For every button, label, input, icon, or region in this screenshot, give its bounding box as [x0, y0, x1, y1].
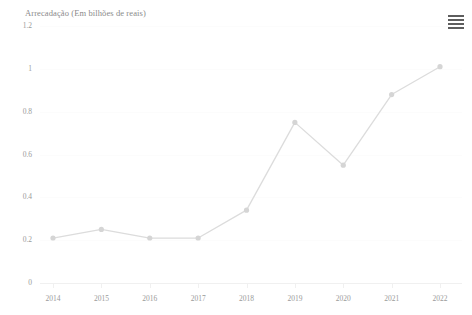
data-point-marker[interactable]: 2019: 0.75	[292, 120, 297, 125]
data-point-marker[interactable]: 2016: 0.21	[147, 235, 152, 240]
data-point-marker[interactable]: 2022: 1.01	[437, 64, 442, 69]
chart-widget: Arrecadação (Em bilhões de reais) 00.20.…	[0, 0, 472, 315]
plot-area: 00.20.40.60.811.2 2014201520162017201820…	[0, 0, 472, 315]
data-point-marker[interactable]: 2015: 0.25	[99, 227, 104, 232]
data-point-marker[interactable]: 2017: 0.21	[196, 235, 201, 240]
data-point-marker[interactable]: 2018: 0.34	[244, 208, 249, 213]
line-series: 2014: 0.212015: 0.252016: 0.212017: 0.21…	[0, 0, 472, 315]
data-point-marker[interactable]: 2014: 0.21	[50, 235, 55, 240]
data-point-marker[interactable]: 2020: 0.55	[341, 163, 346, 168]
data-point-marker[interactable]: 2021: 0.88	[389, 92, 394, 97]
